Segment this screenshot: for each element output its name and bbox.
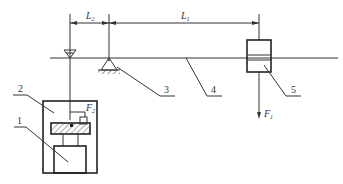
part-label-5: 5 bbox=[264, 65, 301, 96]
sensor-base bbox=[54, 134, 86, 173]
svg-text:2: 2 bbox=[18, 83, 23, 94]
svg-text:4: 4 bbox=[211, 84, 216, 95]
fulcrum-support bbox=[98, 58, 120, 74]
force-F2-marker: F2 bbox=[70, 102, 95, 117]
dimension-L2: L2 bbox=[70, 10, 109, 25]
svg-text:5: 5 bbox=[291, 84, 296, 95]
part-label-3: 3 bbox=[117, 67, 175, 96]
dimension-L1: L1 bbox=[109, 10, 259, 25]
counterweight-block bbox=[247, 40, 271, 72]
part-label-4: 4 bbox=[186, 58, 222, 96]
svg-text:1: 1 bbox=[17, 115, 22, 126]
lever-balance-diagram: L2 L1 F1 F2 bbox=[0, 0, 343, 184]
part-label-2: 2 bbox=[13, 83, 54, 113]
svg-text:3: 3 bbox=[164, 84, 169, 95]
label-L1: L1 bbox=[180, 10, 190, 22]
label-L2: L2 bbox=[85, 10, 95, 22]
label-F2: F2 bbox=[85, 102, 95, 114]
label-F1: F1 bbox=[263, 108, 273, 120]
part-label-1: 1 bbox=[14, 115, 68, 162]
force-F1-arrow: F1 bbox=[257, 72, 273, 120]
